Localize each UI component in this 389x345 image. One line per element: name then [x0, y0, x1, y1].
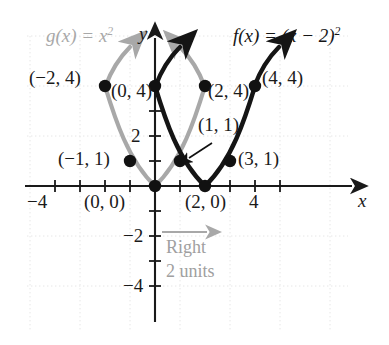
y-tick-label-neg2: −2: [123, 226, 143, 245]
point-label-4-4: (4, 4): [262, 68, 303, 87]
point-label-1-1: (1, 1): [198, 115, 239, 134]
point-neg2-4: [99, 80, 111, 92]
figure-canvas: g(x) = x2 f(x) = (x − 2)2 y x (−2, 4) (0…: [0, 0, 389, 345]
point-label-2-4: (2, 4): [208, 81, 249, 100]
graph-svg: [0, 0, 389, 345]
y-tick-label-2: 2: [131, 126, 141, 145]
equation-shifted-text: f(x) = (x − 2): [233, 25, 335, 46]
x-tick-label-4: 4: [249, 192, 259, 211]
y-tick-label-neg4: −4: [123, 276, 143, 295]
point-1-1: [174, 155, 186, 167]
point-neg1-1: [124, 155, 136, 167]
point-label-2-0: (2, 0): [185, 192, 226, 211]
point-label-neg1-1: (−1, 1): [58, 149, 110, 168]
shift-annotation-line1: Right: [166, 238, 206, 256]
point-label-0-4: (0, 4): [111, 81, 152, 100]
y-axis-label: y: [139, 24, 147, 43]
x-tick-label-neg4: −4: [27, 192, 47, 211]
equation-label-parent: g(x) = x2: [46, 26, 113, 45]
x-axis-label: x: [358, 191, 366, 210]
point-4-4: [249, 80, 261, 92]
equation-label-shifted: f(x) = (x − 2)2: [233, 26, 341, 45]
point-label-0-0: (0, 0): [84, 192, 125, 211]
equation-shifted-exponent: 2: [335, 25, 341, 38]
point-3-1: [224, 155, 236, 167]
shift-annotation-line2: 2 units: [166, 262, 215, 280]
point-0-0: [149, 180, 161, 192]
equation-parent-text: g(x) = x: [46, 25, 107, 46]
point-label-3-1: (3, 1): [238, 149, 279, 168]
equation-parent-exponent: 2: [107, 25, 113, 38]
point-label-neg2-4: (−2, 4): [29, 68, 81, 87]
callout-arrow-1-1: [189, 143, 212, 158]
